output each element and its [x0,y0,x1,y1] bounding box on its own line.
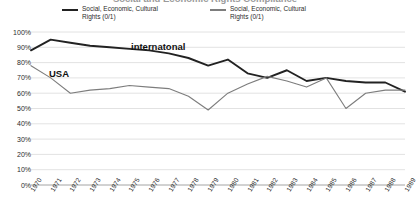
series-annotation-international: internatonal [131,41,185,52]
x-axis-tick-label: 1974 [108,177,122,193]
x-axis-tick-label: 1988 [383,177,397,193]
x-axis-tick-label: 1979 [206,177,220,193]
x-axis-tick-label: 1983 [285,177,299,193]
series-annotation-usa: USA [49,68,69,79]
x-axis-tick-label: 1970 [29,177,43,193]
x-axis-tick-label: 1989 [403,177,417,193]
x-axis-tick-label: 1982 [265,177,279,193]
x-axis-tick-label: 1981 [246,177,260,193]
x-axis-tick-label: 1984 [305,177,319,193]
x-axis-tick-label: 1985 [324,177,338,193]
x-axis-tick-label: 1976 [147,177,161,193]
x-axis-tick-label: 1978 [186,177,200,193]
x-axis-tick-label: 1987 [364,177,378,193]
x-axis-tick-label: 1980 [226,177,240,193]
x-axis-tick-label: 1971 [49,177,63,193]
x-axis-tick-label: 1977 [167,177,181,193]
x-axis-tick-label: 1975 [127,177,141,193]
x-axis-tick-label: 1986 [344,177,358,193]
x-axis-tick-label: 1973 [88,177,102,193]
x-axis-tick-label: 1972 [68,177,82,193]
